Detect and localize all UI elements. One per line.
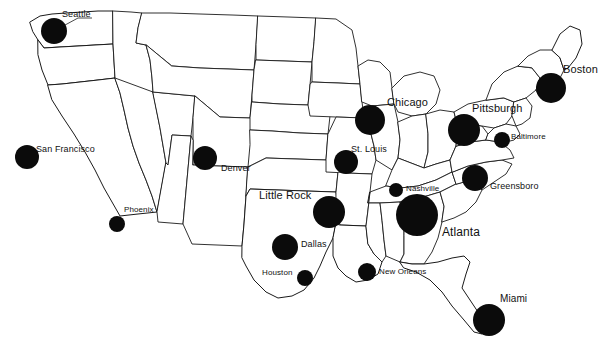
city-bubble[interactable] <box>355 105 385 135</box>
city-label: Atlanta <box>442 226 480 238</box>
city-bubble[interactable] <box>272 234 298 260</box>
city-label: Houston <box>262 269 293 277</box>
city-label: Dallas <box>301 240 327 249</box>
city-bubble[interactable] <box>536 73 566 103</box>
city-bubble[interactable] <box>473 304 505 336</box>
city-label: Baltimore <box>511 133 546 141</box>
city-bubble[interactable] <box>396 194 438 236</box>
city-bubble[interactable] <box>297 270 313 286</box>
us-map-svg <box>0 0 613 360</box>
city-label: Miami <box>500 294 527 304</box>
city-bubble[interactable] <box>494 132 510 148</box>
city-label: Chicago <box>387 97 428 108</box>
city-bubble[interactable] <box>41 18 67 44</box>
city-label: Pittsburgh <box>472 103 523 114</box>
city-label: Denver <box>221 164 251 173</box>
city-label: Boston <box>563 64 598 75</box>
city-bubble[interactable] <box>462 165 488 191</box>
city-label: Nashville <box>406 185 439 193</box>
city-bubble[interactable] <box>389 183 403 197</box>
city-bubble[interactable] <box>109 216 125 232</box>
city-bubble[interactable] <box>193 146 217 170</box>
city-label: San Francisco <box>36 145 95 154</box>
city-label: New Orleans <box>379 268 426 276</box>
city-label: Seattle <box>62 10 91 19</box>
city-label: Phoenix <box>124 206 154 214</box>
city-bubble[interactable] <box>358 263 376 281</box>
city-label: Little Rock <box>259 190 311 201</box>
city-label: Greensboro <box>490 182 539 191</box>
city-bubble[interactable] <box>448 114 480 146</box>
city-bubble[interactable] <box>313 196 345 228</box>
us-bubble-map: SeattleSan FranciscoPhoenixDenverDallasH… <box>0 0 613 360</box>
city-label: St. Louis <box>351 145 387 154</box>
